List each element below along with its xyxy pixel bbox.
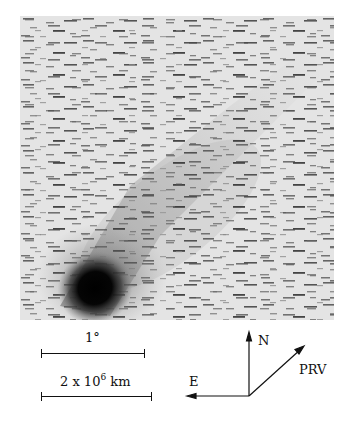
north-arrowhead-icon bbox=[247, 332, 252, 341]
north-label: N bbox=[258, 333, 269, 348]
east-arrowhead-icon bbox=[187, 394, 196, 399]
velocity-label: PRV bbox=[299, 362, 326, 377]
prv-arrow bbox=[249, 349, 301, 396]
east-label: E bbox=[189, 374, 199, 389]
